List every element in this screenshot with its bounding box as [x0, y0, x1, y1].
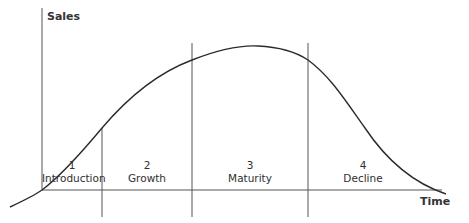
stage-name: Introduction [42, 172, 102, 185]
stage-number: 4 [308, 159, 418, 172]
stage-number: 3 [192, 159, 308, 172]
stage-growth: 2 Growth [102, 159, 192, 185]
stage-name: Decline [308, 172, 418, 185]
stage-name: Growth [102, 172, 192, 185]
stage-maturity: 3 Maturity [192, 159, 308, 185]
y-axis-label: Sales [47, 10, 80, 23]
life-cycle-diagram [0, 0, 469, 223]
stage-number: 2 [102, 159, 192, 172]
stage-decline: 4 Decline [308, 159, 418, 185]
x-axis-label: Time [420, 195, 450, 208]
stage-number: 1 [42, 159, 102, 172]
stage-name: Maturity [192, 172, 308, 185]
stage-introduction: 1 Introduction [42, 159, 102, 185]
